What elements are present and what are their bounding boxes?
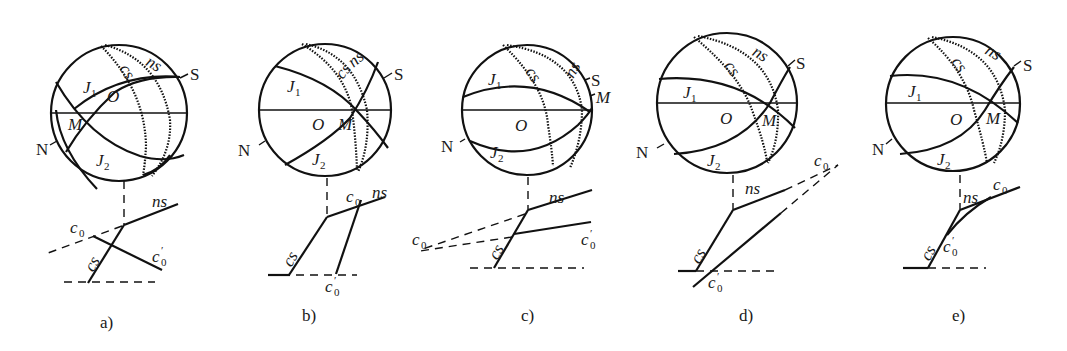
svg-text:0: 0: [421, 239, 427, 251]
label-m: M: [761, 111, 777, 130]
label-s: S: [1023, 56, 1032, 75]
label-j1: J1: [83, 78, 97, 99]
label-ns: ns: [982, 40, 1005, 64]
svg-text:1: 1: [916, 91, 922, 103]
stereonet-circle: [886, 37, 1020, 171]
c0prime-line: [693, 213, 781, 287]
svg-text:0: 0: [355, 196, 361, 208]
label-j2: J2: [96, 151, 110, 172]
svg-text:0: 0: [823, 160, 829, 172]
s-tick: [1014, 61, 1021, 66]
ns-extension: [785, 165, 838, 190]
label-j2: J2: [707, 151, 721, 172]
label-o: O: [107, 87, 119, 106]
label-c0-prime: c0′: [708, 270, 723, 294]
label-cs-lower: cs: [278, 248, 302, 270]
caption-a: a): [100, 313, 113, 332]
svg-text:c: c: [346, 187, 354, 206]
label-m: M: [595, 88, 611, 107]
svg-text:0: 0: [590, 239, 596, 251]
svg-text:c: c: [814, 151, 822, 170]
label-c0-prime: c0′: [581, 227, 596, 251]
label-o: O: [720, 109, 732, 128]
label-c0-prime: c0′: [325, 274, 340, 298]
s-tick: [585, 78, 590, 80]
svg-text:c: c: [581, 230, 589, 249]
label-o: O: [515, 116, 527, 135]
label-cs: cs: [522, 63, 546, 86]
svg-text:2: 2: [320, 159, 326, 171]
s-tick: [180, 74, 188, 78]
label-n: N: [36, 140, 48, 159]
c0prime-extension: [781, 165, 838, 213]
svg-text:1: 1: [496, 79, 502, 91]
label-n: N: [441, 137, 453, 156]
label-o: O: [312, 115, 324, 134]
panel-a: S N O M J1 J2 cs ns ns cs c0 c0′ a): [36, 45, 199, 332]
svg-text:0: 0: [717, 282, 723, 294]
n-tick: [886, 139, 892, 144]
label-cs-lower: cs: [916, 242, 940, 264]
svg-text:c: c: [412, 230, 420, 249]
label-c0: c0: [993, 175, 1008, 196]
svg-text:2: 2: [945, 159, 951, 171]
label-c0-prime: c0′: [152, 244, 167, 268]
j2-great-circle: [470, 108, 592, 151]
label-c0: c0: [346, 187, 361, 208]
label-ns-lower: ns: [549, 188, 565, 207]
stereonet-figure: S N O M J1 J2 cs ns ns cs c0 c0′ a) S N …: [0, 0, 1067, 351]
svg-text:c: c: [943, 237, 951, 256]
label-ns: ns: [143, 52, 166, 76]
svg-text:0: 0: [79, 227, 85, 239]
caption-d: d): [739, 306, 753, 325]
label-j2: J2: [490, 143, 504, 164]
svg-text:0: 0: [334, 286, 340, 298]
label-j1: J1: [287, 77, 301, 98]
caption-e: e): [952, 306, 965, 325]
c0-extension-upper: [420, 214, 525, 250]
label-cs: cs: [721, 57, 745, 80]
panel-d: S N O M J1 J2 cs ns ns cs c0 c0′ d): [636, 33, 838, 325]
label-ns-lower: ns: [745, 179, 761, 198]
label-ns-lower: ns: [963, 188, 979, 207]
label-cs-lower: cs: [484, 241, 508, 263]
svg-text:c: c: [325, 277, 333, 296]
label-o: O: [950, 110, 962, 129]
svg-text:1: 1: [91, 87, 97, 99]
n-tick: [259, 141, 265, 145]
svg-text:1: 1: [691, 92, 697, 104]
svg-text:c: c: [993, 175, 1001, 194]
svg-text:′: ′: [161, 244, 163, 256]
svg-text:0: 0: [952, 246, 958, 258]
panel-c: S M N O J1 J2 cs ns ns cs c0 c0′ c): [412, 45, 611, 325]
n-tick: [460, 139, 465, 142]
label-j1: J1: [683, 83, 697, 104]
c0-c0prime-line: [336, 200, 361, 274]
n-tick: [50, 141, 57, 145]
label-cs-lower: cs: [686, 245, 710, 267]
label-j2: J2: [937, 150, 951, 171]
svg-text:2: 2: [104, 160, 110, 172]
label-ns-lower: ns: [152, 192, 168, 211]
label-ns-lower: ns: [372, 183, 388, 202]
label-cs-lower: cs: [80, 253, 104, 275]
ns-line: [124, 204, 178, 225]
svg-text:c: c: [70, 218, 78, 237]
svg-text:2: 2: [498, 152, 504, 164]
n-tick: [657, 144, 664, 148]
label-n: N: [872, 140, 884, 159]
label-s: S: [394, 65, 403, 84]
s-tick: [384, 73, 392, 78]
cs-line: [88, 225, 124, 283]
cs-friction-circle: [503, 45, 553, 166]
label-s: S: [796, 54, 805, 73]
c0prime-line: [514, 222, 591, 234]
label-m: M: [985, 109, 1001, 128]
label-n: N: [238, 141, 250, 160]
label-c0: c0: [814, 151, 829, 172]
label-ns: ns: [560, 58, 584, 81]
svg-text:′: ′: [717, 270, 719, 282]
c0-extension: [48, 226, 122, 253]
caption-b: b): [302, 306, 316, 325]
svg-text:′: ′: [590, 227, 592, 239]
